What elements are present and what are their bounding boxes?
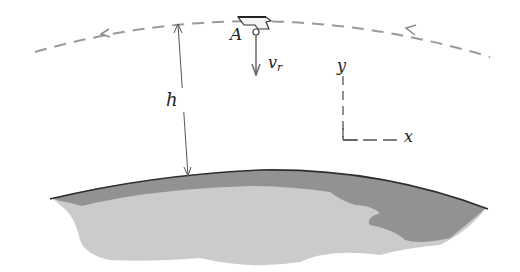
label-point-a: A [230, 26, 242, 43]
label-velocity-sub: r [277, 61, 282, 74]
label-velocity: vr [268, 55, 282, 73]
orbit-arrow-right-icon [406, 25, 416, 35]
label-velocity-main: v [268, 53, 277, 72]
diagram-svg [0, 0, 520, 272]
label-altitude-h: h [166, 91, 178, 109]
label-axis-y: y [337, 58, 346, 74]
diagram-canvas: A h vr y x [0, 0, 520, 272]
satellite-icon [238, 17, 271, 35]
label-axis-x: x [404, 129, 413, 145]
